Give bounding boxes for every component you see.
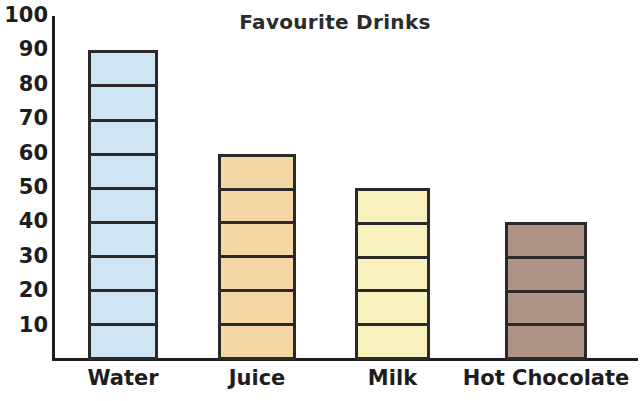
bar-segment (91, 87, 155, 121)
bar-segment (221, 224, 293, 258)
bar-segment (91, 53, 155, 87)
bar-segment (358, 191, 427, 225)
y-axis-tick-90: 90 (2, 39, 48, 60)
y-axis-tick-labels: 100908070605040302010 (0, 0, 48, 401)
y-axis-tick-10: 10 (2, 315, 48, 336)
bar-segment (91, 326, 155, 357)
bar-segment (508, 259, 584, 293)
bar-segment (221, 326, 293, 357)
bar-segment (91, 156, 155, 190)
bar-segment (91, 224, 155, 258)
y-axis-tick-70: 70 (2, 108, 48, 129)
bar-segment (91, 190, 155, 224)
y-axis-tick-60: 60 (2, 143, 48, 164)
bar-segment (358, 225, 427, 259)
bar-juice (218, 154, 296, 360)
bar-segment (358, 326, 427, 357)
bar-hot-chocolate (505, 222, 587, 360)
bar-water (88, 50, 158, 360)
y-axis-tick-30: 30 (2, 246, 48, 267)
bar-segment (358, 292, 427, 326)
y-axis-tick-40: 40 (2, 211, 48, 232)
y-axis-tick-50: 50 (2, 177, 48, 198)
bar-chart: Favourite Drinks 100908070605040302010 W… (0, 0, 642, 401)
bar-segment (221, 191, 293, 225)
bar-segment (508, 293, 584, 327)
bar-segment (91, 292, 155, 326)
bar-segment (508, 225, 584, 259)
y-axis-tick-100: 100 (2, 5, 48, 26)
bar-segment (221, 157, 293, 191)
bar-segment (358, 259, 427, 293)
y-axis-tick-80: 80 (2, 74, 48, 95)
bar-segment (91, 258, 155, 292)
bar-segment (508, 326, 584, 357)
bar-segment (91, 122, 155, 156)
bar-segment (221, 292, 293, 326)
x-axis-category-labels: WaterJuiceMilkHot Chocolate (0, 366, 642, 401)
bar-milk (355, 188, 430, 360)
plot-area (55, 16, 638, 360)
y-axis-tick-20: 20 (2, 280, 48, 301)
x-label-hot-chocolate: Hot Chocolate (436, 366, 642, 391)
bar-segment (221, 258, 293, 292)
